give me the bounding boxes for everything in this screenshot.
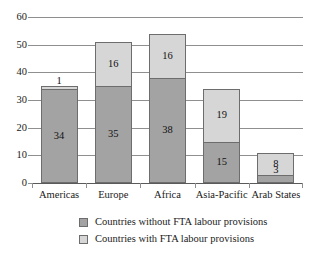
chart-legend: Countries without FTA labour provisionsC… — [0, 214, 318, 248]
gridline-60 — [32, 17, 303, 18]
x-axis-tick-mark — [32, 183, 33, 188]
bar-stack[interactable]: 1635 — [95, 42, 132, 183]
y-axis-tick-label-60: 60 — [17, 12, 28, 23]
bar-value-label: 1 — [56, 76, 61, 87]
y-axis-tick-label-50: 50 — [17, 39, 28, 50]
x-axis-tick-mark — [302, 183, 303, 188]
legend-label: Countries with FTA labour provisions — [95, 234, 254, 245]
y-axis-tick-label-0: 0 — [22, 178, 27, 189]
bar-segment[interactable]: 19 — [203, 89, 240, 142]
x-axis-tick-mark — [140, 183, 141, 188]
bar-stack[interactable]: 1638 — [149, 34, 186, 183]
bar-segment[interactable]: 16 — [149, 34, 186, 78]
legend-item[interactable]: Countries with FTA labour provisions — [0, 231, 318, 248]
x-axis-tick-mark — [195, 183, 196, 188]
legend-swatch-dark — [79, 218, 88, 227]
y-axis-tick-label-20: 20 — [17, 122, 28, 133]
bar-value-label: 16 — [108, 59, 119, 70]
bar-value-label: 3 — [273, 165, 278, 176]
bar-value-label: 38 — [162, 125, 173, 136]
bar-value-label: 35 — [108, 129, 119, 140]
y-axis-tick-label-40: 40 — [17, 67, 28, 78]
x-axis-tick-marks — [32, 183, 303, 188]
bar-segment[interactable]: 16 — [95, 42, 132, 86]
legend-label: Countries without FTA labour provisions — [95, 217, 267, 228]
bar-value-label: 34 — [54, 131, 65, 142]
y-axis-tick-mark-60 — [28, 17, 32, 18]
x-axis-tick-mark — [249, 183, 250, 188]
bar-segment[interactable]: 38 — [149, 78, 186, 183]
bar-segment[interactable]: 3 — [257, 175, 294, 183]
y-axis-tick-mark-50 — [28, 45, 32, 46]
category-label-americas: Americas — [39, 189, 79, 202]
bar-segment[interactable]: 35 — [95, 86, 132, 183]
bar-slot-europe: 1635 — [86, 42, 140, 183]
bar-value-label: 15 — [216, 157, 227, 168]
bar-slot-asia-pacific: 1915 — [195, 89, 249, 183]
y-axis-tick-label-30: 30 — [17, 95, 28, 106]
x-axis-tick-mark — [86, 183, 87, 188]
y-axis-tick-mark-40 — [28, 72, 32, 73]
bar-segment[interactable]: 34 — [41, 89, 78, 183]
bar-stack[interactable]: 134 — [41, 86, 78, 183]
bar-slot-africa: 1638 — [140, 34, 194, 183]
category-label-europe: Europe — [98, 189, 128, 202]
y-axis-tick-label-10: 10 — [17, 150, 28, 161]
category-label-africa: Africa — [154, 189, 181, 202]
category-label-asia-pacific: Asia-Pacific — [196, 189, 248, 202]
x-axis-category-labels: AmericasEuropeAfricaAsia-PacificArab Sta… — [32, 189, 303, 205]
legend-item[interactable]: Countries without FTA labour provisions — [0, 214, 318, 231]
bar-slot-americas: 134 — [32, 86, 86, 183]
bar-segment[interactable]: 15 — [203, 142, 240, 184]
bar-value-label: 16 — [162, 51, 173, 62]
category-label-arab-states: Arab States — [252, 189, 301, 202]
legend-swatch-light — [79, 235, 88, 244]
bar-stack[interactable]: 83 — [257, 153, 294, 183]
bar-stack[interactable]: 1915 — [203, 89, 240, 183]
bar-value-label: 19 — [216, 110, 227, 121]
stacked-bar-chart: 010203040506013416351638191583 AmericasE… — [0, 0, 318, 267]
plot-area: 010203040506013416351638191583 — [32, 17, 303, 183]
bar-slot-arab-states: 83 — [249, 153, 303, 183]
